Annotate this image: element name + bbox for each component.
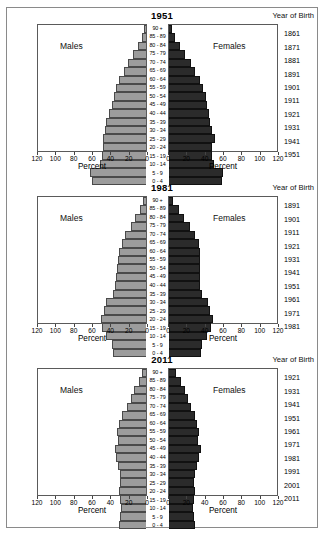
male-bar <box>143 197 146 205</box>
pyramid-row <box>38 411 146 419</box>
male-bar <box>142 369 146 377</box>
x-axis-tick-label: 100 <box>254 327 265 335</box>
males-plot-1951: Males <box>37 24 147 152</box>
pyramid-row <box>169 59 277 67</box>
x-axis-tick-label: 100 <box>50 155 61 163</box>
pyramid-row <box>38 109 146 117</box>
pyramid-row <box>169 239 277 247</box>
year-of-birth-label: 1971 <box>284 310 300 318</box>
male-bar <box>133 50 146 58</box>
pyramid-row <box>38 420 146 428</box>
male-bar <box>120 470 146 478</box>
females-label-1951: Females <box>213 41 246 51</box>
male-bar <box>103 143 146 151</box>
age-group-label: 35 - 39 <box>147 118 168 127</box>
pyramid-row <box>169 264 277 272</box>
age-group-label: 0 - 4 <box>147 178 168 187</box>
male-bar <box>103 134 146 142</box>
male-bar <box>117 264 146 272</box>
female-bar <box>169 298 208 306</box>
pyramid-row <box>169 248 277 256</box>
year-of-birth-label: 1951 <box>284 151 300 159</box>
pyramid-row <box>38 33 146 41</box>
male-bar <box>142 33 146 41</box>
year-of-birth-label: 1951 <box>284 415 300 423</box>
pyramid-row <box>38 290 146 298</box>
year-of-birth-label: 1961 <box>284 428 300 436</box>
male-bar <box>106 118 146 126</box>
female-bar <box>169 281 200 289</box>
year-of-birth-label: 1911 <box>284 97 299 105</box>
males-label-1951: Males <box>60 41 83 51</box>
males-plot-2011: Males <box>37 368 147 496</box>
pyramid-row <box>38 306 146 314</box>
pyramid-row <box>169 298 277 306</box>
female-bar <box>169 428 199 436</box>
pyramid-row <box>169 306 277 314</box>
pyramid-row <box>38 101 146 109</box>
female-bar <box>169 273 200 281</box>
female-bar <box>169 50 185 58</box>
year-of-birth-header-2011: Year of Birth <box>272 355 314 365</box>
pyramid-row <box>38 377 146 385</box>
female-bar <box>169 59 191 67</box>
year-of-birth-label: 1941 <box>284 401 300 409</box>
pyramid-row <box>169 118 277 126</box>
age-group-label: 50 - 54 <box>147 92 168 101</box>
pyramid-row <box>38 394 146 402</box>
male-bar <box>116 273 146 281</box>
age-group-label: 85 - 89 <box>147 205 168 214</box>
age-group-label: 55 - 59 <box>147 84 168 93</box>
pyramid-row <box>38 205 146 213</box>
x-axis-tick-label: 40 <box>201 327 208 335</box>
x-axis-tick-label: 60 <box>219 499 226 507</box>
pyramid-row <box>38 462 146 470</box>
age-group-label: 5 - 9 <box>147 341 168 350</box>
male-bar <box>127 403 146 411</box>
age-group-label: 25 - 29 <box>147 135 168 144</box>
x-axis-tick-label: 60 <box>88 155 95 163</box>
pyramid-row <box>38 42 146 50</box>
male-bar <box>105 126 146 134</box>
pyramid-row <box>38 67 146 75</box>
year-of-birth-label: 1891 <box>284 71 300 79</box>
age-group-label: 90 + <box>147 24 168 33</box>
age-group-label: 0 - 4 <box>147 522 168 531</box>
pyramid-row <box>169 428 277 436</box>
x-axis-females-1981: Percent 020406080100120 <box>168 324 278 342</box>
population-pyramid-figure: 1951 Year of Birth Males Females 90 +85 … <box>0 0 324 536</box>
age-group-label: 40 - 44 <box>147 281 168 290</box>
pyramid-row <box>169 453 277 461</box>
age-group-label: 85 - 89 <box>147 377 168 386</box>
age-group-label: 65 - 69 <box>147 67 168 76</box>
pyramid-row <box>38 478 146 486</box>
female-bar <box>169 478 194 486</box>
male-bar <box>120 478 146 486</box>
pyramid-row <box>169 445 277 453</box>
age-group-label: 15 - 19 <box>147 496 168 505</box>
year-of-birth-label: 1971 <box>284 441 300 449</box>
pyramid-row <box>169 134 277 142</box>
age-group-label: 10 - 14 <box>147 505 168 514</box>
age-group-label: 75 - 79 <box>147 50 168 59</box>
pyramid-row <box>38 126 146 134</box>
x-axis-title-males-1981: Percent <box>37 334 147 344</box>
year-of-birth-column-1951: 1861187118811891190119111921193119411951 <box>284 24 320 152</box>
male-bar <box>119 420 146 428</box>
female-bar <box>169 436 198 444</box>
female-bar <box>169 290 202 298</box>
pyramid-row <box>38 436 146 444</box>
age-axis-1951: 90 +85 - 8980 - 8475 - 7970 - 7465 - 696… <box>147 24 168 152</box>
females-plot-1981: Females <box>168 196 278 324</box>
age-group-label: 90 + <box>147 196 168 205</box>
pyramid-row <box>169 436 277 444</box>
age-group-label: 30 - 34 <box>147 471 168 480</box>
female-bar <box>169 239 199 247</box>
age-group-label: 75 - 79 <box>147 222 168 231</box>
female-bar <box>169 369 176 377</box>
female-bar <box>169 248 200 256</box>
female-bar <box>169 197 173 205</box>
female-bar <box>169 377 181 385</box>
pyramid-row <box>169 281 277 289</box>
x-axis-tick-label: 100 <box>50 499 61 507</box>
